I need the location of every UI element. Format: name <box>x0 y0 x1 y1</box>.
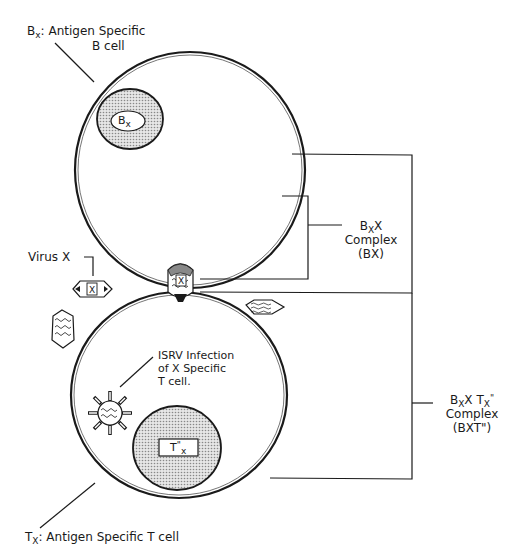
t-nucleus-symbol: T <box>170 441 177 454</box>
b-nucleus-symbol: B <box>118 114 126 127</box>
bx-complex-line3: (BX) <box>336 247 406 261</box>
bx-complex-line1: BXX <box>336 219 406 233</box>
t-cell-label: TX: Antigen Specific T cell <box>25 530 179 544</box>
isrv-label: ISRV Infection of X Specific T cell. <box>158 349 234 388</box>
bx-x: X <box>374 219 382 233</box>
svg-text:X: X <box>178 276 184 286</box>
t-nucleus-label: T"x <box>170 441 186 455</box>
b-nucleus-label: Bx <box>118 114 131 128</box>
isrv-particle <box>88 391 132 435</box>
bxt-complex-line1: BXX TX" <box>432 393 512 407</box>
bx-complex-label: BXX Complex (BX) <box>336 219 406 261</box>
b-cell-text: : Antigen Specific <box>41 24 146 38</box>
isrv-leader-line <box>120 357 153 387</box>
b-cell-symbol: B <box>27 24 35 38</box>
bridging-virus-x: X <box>168 264 193 302</box>
bx-complex-line2: Complex <box>336 233 406 247</box>
virus-x-leader-line <box>84 257 93 276</box>
t-cell-text: : Antigen Specific T cell <box>39 530 179 544</box>
t-nucleus-subscript: x <box>181 446 186 456</box>
bxt-complex-label: BXX TX" Complex (BXT") <box>432 393 512 435</box>
diagram-canvas: X X <box>0 0 515 555</box>
bxt-b-symbol: B <box>450 393 458 407</box>
isrv-line2: of X Specific <box>158 362 234 375</box>
b-cell-leader-line <box>55 43 94 82</box>
b-cell-label-line2: B cell <box>92 39 125 53</box>
bx-symbol: B <box>360 219 368 233</box>
bxt-prime: " <box>490 393 494 403</box>
b-nucleus-subscript: x <box>126 119 131 129</box>
b-cell-label: Bx: Antigen Specific <box>27 24 145 38</box>
bxt-xt-symbol: X T <box>464 393 483 407</box>
bxt-bracket <box>270 293 412 479</box>
free-virus-horizontal <box>246 300 284 314</box>
virus-x-particle: X <box>73 281 112 297</box>
bxt-complex-line3: (BXT") <box>432 421 512 435</box>
virus-x-label: Virus X <box>28 250 70 264</box>
isrv-line1: ISRV Infection <box>158 349 234 362</box>
free-virus-vertical <box>52 310 74 348</box>
b-cell <box>75 52 305 288</box>
t-cell-leader-line <box>40 483 95 528</box>
bxt-complex-line2: Complex <box>432 407 512 421</box>
svg-text:X: X <box>89 285 95 295</box>
isrv-line3: T cell. <box>158 375 234 388</box>
bx-bracket <box>200 196 308 279</box>
